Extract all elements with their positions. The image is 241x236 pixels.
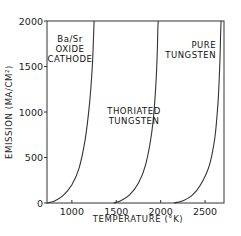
y-tick-label: 1500 — [19, 61, 43, 72]
x-tick-label: 2500 — [193, 206, 217, 217]
y-tick-label: 500 — [25, 152, 43, 163]
thoriated-tungsten-label: THORIATEDTUNGSTEN — [106, 106, 160, 126]
y-tick-label: 1000 — [19, 107, 43, 118]
y-tick-label: 0 — [37, 198, 43, 209]
x-tick-label: 1000 — [60, 206, 84, 217]
x-axis-title: TEMPERATURE (°K) — [92, 214, 184, 224]
y-axis-title: EMISSION (MA/CM²) — [4, 65, 14, 159]
pure-tungsten-label: PURETUNGSTEN — [164, 40, 216, 60]
curve-annotations: Ba/SrOXIDECATHODETHORIATEDTUNGSTENPURETU… — [48, 34, 216, 126]
oxide-cathode-label: Ba/SrOXIDECATHODE — [48, 34, 93, 64]
y-tick-label: 2000 — [19, 16, 43, 27]
emission-vs-temperature-chart: 05001000150020001000150020002500 Ba/SrOX… — [0, 0, 241, 236]
